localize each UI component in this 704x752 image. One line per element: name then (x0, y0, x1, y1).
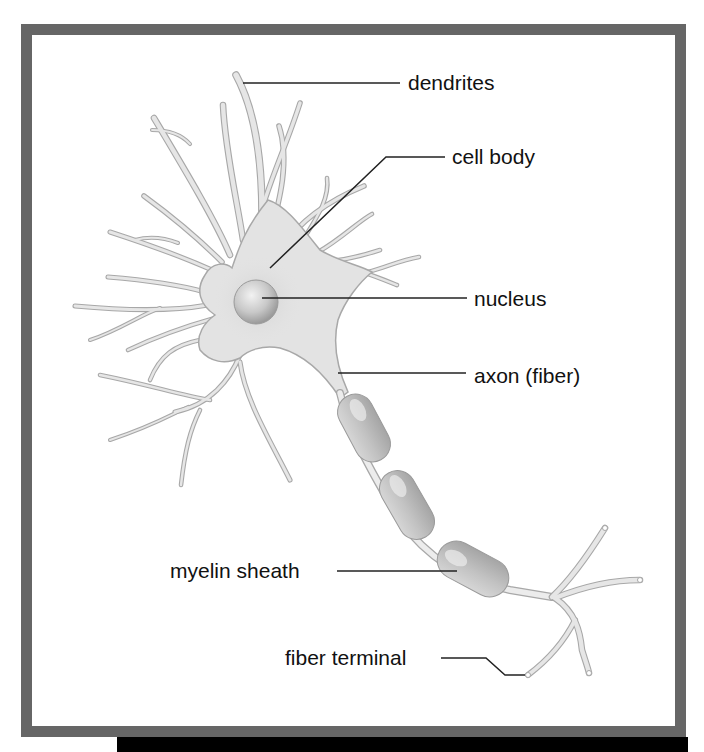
dendrite-branch-fill (240, 362, 290, 480)
nucleus (234, 280, 278, 324)
dendrite-branch-fill (223, 105, 243, 240)
fiber-terminal-leader-line (441, 658, 525, 675)
dendrite-branch-fill (555, 598, 589, 673)
dendrite-branch-fill (90, 308, 160, 340)
dendrite-branch (528, 620, 575, 675)
myelin-segment (373, 464, 441, 546)
dendrite-branch (150, 340, 200, 380)
dendrite-branch-fill (368, 257, 419, 272)
dendrite-branch-fill (100, 375, 210, 400)
neuron-diagram: dendrites cell body nucleus axon (fiber)… (0, 0, 704, 752)
label-axon: axon (fiber) (474, 364, 580, 387)
dendrite-branch-fill (150, 340, 200, 380)
cell-body (199, 200, 372, 398)
label-myelin-sheath: myelin sheath (170, 559, 300, 582)
label-fiber-terminal: fiber terminal (285, 646, 406, 669)
fiber-terminal (526, 526, 643, 678)
dendrite-branch (175, 355, 240, 412)
dendrite-branch-fill (318, 214, 372, 252)
dendrite-branch (181, 410, 200, 485)
myelin-segment (431, 534, 516, 603)
label-dendrites: dendrites (408, 71, 494, 94)
dendrite-branch-fill (175, 355, 240, 412)
label-cell-body: cell body (452, 145, 535, 168)
label-nucleus: nucleus (474, 287, 546, 310)
